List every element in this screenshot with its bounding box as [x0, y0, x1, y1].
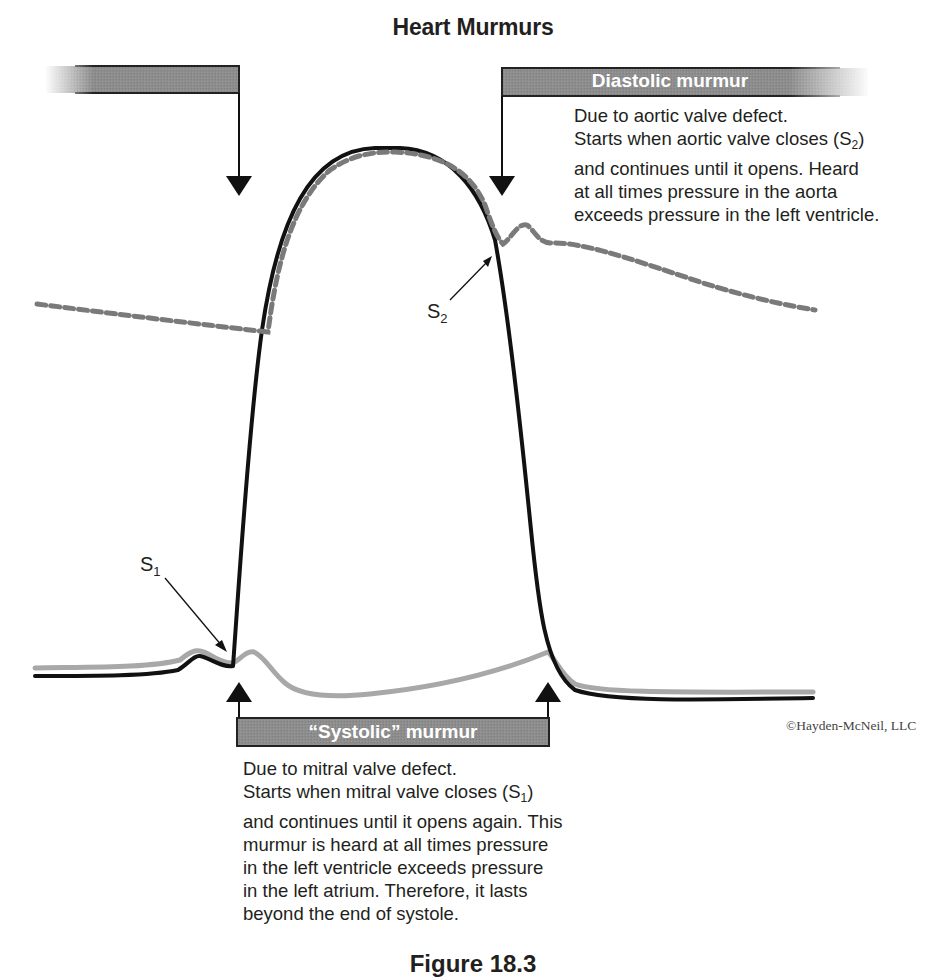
- diastolic-line-5: exceeds pressure in the left ventricle.: [574, 203, 944, 226]
- diastolic-line-3: and continues until it opens. Heard: [574, 157, 944, 180]
- systolic-line-1: Due to mitral valve defect.: [243, 757, 623, 780]
- top-left-bar: [45, 64, 239, 95]
- systolic-line-2: Starts when mitral valve closes (S1): [243, 780, 623, 810]
- systolic-line-4: murmur is heard at all times pressure: [243, 833, 623, 856]
- ventricular-pressure-line: [35, 148, 813, 700]
- systolic-line-7: beyond the end of systole.: [243, 902, 623, 925]
- diastolic-line-4: at all times pressure in the aorta: [574, 180, 944, 203]
- down-arrow-left: [226, 93, 252, 196]
- diastolic-bar-label: Diastolic murmur: [555, 70, 785, 92]
- diastolic-description: Due to aortic valve defect. Starts when …: [574, 104, 944, 226]
- down-arrow-right: [489, 96, 515, 196]
- copyright-notice: ©Hayden-McNeil, LLC: [786, 718, 916, 734]
- diastolic-line-1: Due to aortic valve defect.: [574, 104, 944, 127]
- systolic-line-5: in the left ventricle exceeds pressure: [243, 856, 623, 879]
- systolic-description: Due to mitral valve defect. Starts when …: [243, 757, 623, 925]
- up-arrow-left: [226, 682, 252, 720]
- s1-label: S1: [140, 553, 161, 579]
- diastolic-line-2: Starts when aortic valve closes (S2): [574, 127, 944, 157]
- figure-caption: Figure 18.3: [0, 950, 946, 978]
- s1-pointer: [165, 578, 227, 652]
- systolic-line-3: and continues until it opens again. This: [243, 810, 623, 833]
- up-arrow-right: [535, 682, 561, 720]
- systolic-bar-label: “Systolic” murmur: [237, 721, 549, 743]
- s2-label: S2: [427, 300, 448, 326]
- systolic-line-6: in the left atrium. Therefore, it lasts: [243, 879, 623, 902]
- s2-pointer: [450, 256, 492, 300]
